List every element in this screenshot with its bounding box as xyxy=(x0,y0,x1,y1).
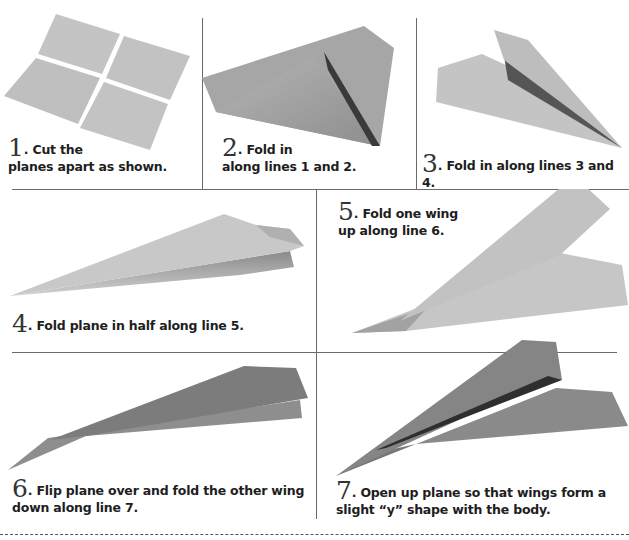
step-4: 4. Fold plane in half along line 5. xyxy=(0,189,316,352)
step-number: 2 xyxy=(222,133,238,162)
step-text: Fold in along lines 3 and 4. xyxy=(422,158,614,190)
step-2: 2. Fold in along lines 1 and 2. xyxy=(202,0,416,189)
step-number: 4 xyxy=(12,309,28,338)
step-number: 7 xyxy=(336,476,352,505)
step-text: Fold plane in half along line 5. xyxy=(36,318,243,333)
step-number: 6 xyxy=(12,474,28,503)
step-text-cont: along lines 1 and 2. xyxy=(222,159,356,174)
step-number: 1 xyxy=(8,133,24,162)
cut-line-dashed xyxy=(0,534,629,535)
step-6: 6. Flip plane over and fold the other wi… xyxy=(0,352,316,534)
step-7: 7. Open up plane so that wings form a sl… xyxy=(316,340,629,534)
step-text-cont: slight “y” shape with the body. xyxy=(336,502,550,517)
step-text: Fold in xyxy=(246,142,292,157)
step-1: 1. Cut the planes apart as shown. xyxy=(0,0,202,189)
step-text: Cut the xyxy=(32,142,82,157)
step-text: Fold one wing xyxy=(362,206,458,221)
step-text: Flip plane over and fold the other wing xyxy=(36,483,304,498)
step-text-cont: down along line 7. xyxy=(12,500,138,515)
step-number: 3 xyxy=(422,149,438,178)
step-text: Open up plane so that wings form a xyxy=(360,485,606,500)
step-5: 5. Fold one wing up along line 6. xyxy=(316,189,629,352)
step-text-cont: up along line 6. xyxy=(338,223,444,238)
step-number: 5 xyxy=(338,197,354,226)
step-text-cont: planes apart as shown. xyxy=(8,159,167,174)
step-3: 3. Fold in along lines 3 and 4. xyxy=(416,0,629,189)
